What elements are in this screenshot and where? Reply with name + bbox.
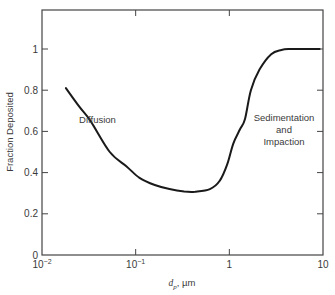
x-tick-label: 10−1 xyxy=(126,258,145,270)
y-tick-label: 0.6 xyxy=(24,126,38,137)
x-tick-label-base: 10 xyxy=(317,259,329,270)
annotations: DiffusionSedimentationandImpaction xyxy=(79,112,314,147)
annotation-diffusion: Diffusion xyxy=(79,114,116,125)
y-tick-label: 0.2 xyxy=(24,208,38,219)
annotation-sedimentation-impaction-line: Sedimentation xyxy=(254,112,315,123)
x-tick-label-base: 10 xyxy=(32,259,44,270)
y-axis-ticks: 00.20.40.60.81 xyxy=(24,44,323,261)
annotation-sedimentation-impaction-line: and xyxy=(276,124,292,135)
y-tick-label: 1 xyxy=(32,44,38,55)
x-tick-label-base: 1 xyxy=(227,259,233,270)
y-tick-label: 0.8 xyxy=(24,85,38,96)
x-tick-label-base: 10 xyxy=(126,259,138,270)
deposition-chart: 10−210−1110 00.20.40.60.81 DiffusionSedi… xyxy=(0,0,335,295)
x-axis-title: dp, µm xyxy=(169,277,196,291)
y-tick-label: 0 xyxy=(32,250,38,261)
x-tick-label: 1 xyxy=(227,259,233,270)
y-tick-label: 0.4 xyxy=(24,167,38,178)
x-tick-label-exponent: −2 xyxy=(44,258,52,265)
x-tick-label: 10 xyxy=(317,259,329,270)
y-axis-title: Fraction Deposited xyxy=(4,92,15,172)
x-axis-title-unit: , µm xyxy=(177,277,196,288)
x-tick-label-exponent: −1 xyxy=(137,258,145,265)
annotation-sedimentation-impaction-line: Impaction xyxy=(263,136,304,147)
